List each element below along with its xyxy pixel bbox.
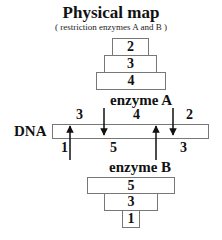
enzyme-b-fragment-5: 5	[87, 177, 175, 194]
enzyme-b-fragment-3: 3	[104, 193, 158, 211]
enzyme-b-label: enzyme B	[109, 160, 171, 175]
physical-map-diagram: Physical map ( restriction enzymes A and…	[0, 0, 222, 240]
enzyme-b-fragment-1: 1	[122, 210, 140, 228]
